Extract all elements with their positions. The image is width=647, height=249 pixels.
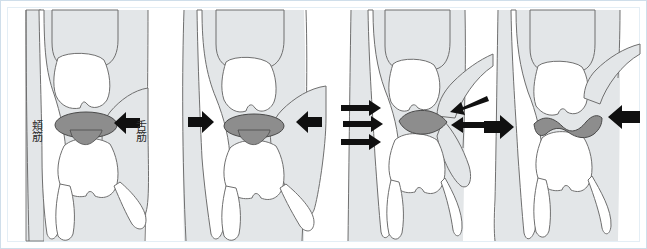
p4-lower-root-buccal: [534, 178, 551, 237]
p3-lower-root-buccal: [387, 180, 404, 239]
label-buccinator: 頬筋: [30, 120, 42, 142]
panel-3-illustration: [337, 8, 497, 243]
panel-2-illustration: [176, 8, 336, 243]
figure-inner-border: 頬筋 舌筋: [7, 7, 640, 242]
p4-upper-tooth: [534, 61, 588, 115]
p1-lower-root-buccal: [56, 184, 75, 240]
panel-1: 頬筋 舌筋: [14, 8, 174, 243]
p2-lower-root-buccal: [222, 186, 241, 240]
panel-3: [337, 8, 497, 243]
panel-4-illustration: [482, 8, 642, 243]
panel-2: [176, 8, 336, 243]
figure-frame: 頬筋 舌筋: [0, 0, 647, 249]
p3-upper-tooth: [389, 59, 440, 111]
panel-4: [482, 8, 642, 243]
label-tongue: 舌筋: [134, 120, 146, 142]
p1-upper-tooth: [54, 53, 110, 108]
p2-upper-tooth: [222, 57, 276, 112]
